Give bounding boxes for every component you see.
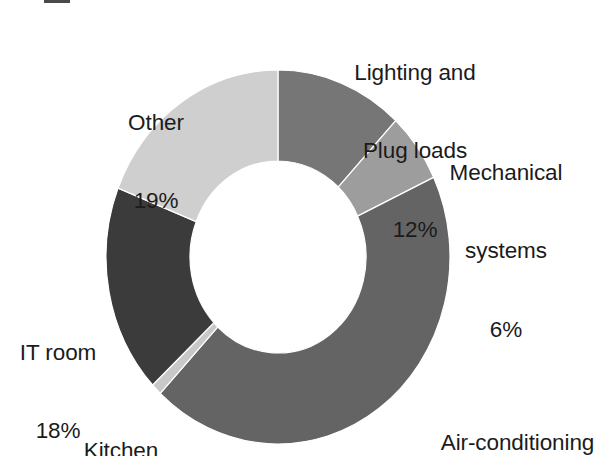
donut-chart-figure: Lighting and Plug loads 12% Mechanical s… <box>0 0 599 456</box>
slice-label-name-line1: Other <box>98 110 214 136</box>
slice-label-value: 19% <box>98 188 214 214</box>
slice-label-name-line1: Air-conditioning <box>436 430 599 456</box>
slice-label-name-line1: IT room <box>2 340 114 366</box>
slice-label-value: 6% <box>420 317 592 343</box>
slice-label-mechanical-systems: Mechanical systems 6% <box>420 108 592 395</box>
slice-label-it-room: IT room 18% <box>2 288 114 456</box>
slice-label-name-line1: Lighting and <box>330 60 500 86</box>
slice-label-name-line2: systems <box>420 238 592 264</box>
slice-label-air-conditioning: Air-conditioning 44% <box>436 378 599 456</box>
slice-label-name-line1: Mechanical <box>420 160 592 186</box>
slice-label-value: 18% <box>2 418 114 444</box>
slice-label-other: Other 19% <box>98 58 214 267</box>
